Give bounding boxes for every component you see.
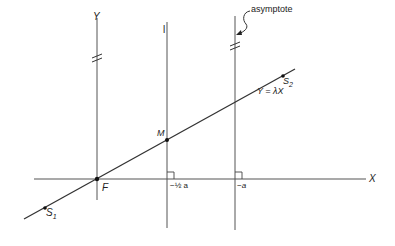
line-y-equals-lambda-x [24, 69, 295, 219]
diagram-canvas: Y l asymptote S2 Y = λX M F −½ a −a X S1 [0, 0, 395, 246]
diagram-lines [0, 0, 395, 246]
tick-half-a-label: −½ a [170, 182, 188, 190]
tick-a-label: −a [237, 182, 246, 190]
right-angle-mark [235, 172, 242, 179]
s1-subscript: 1 [53, 213, 57, 220]
point-M-label: M [157, 129, 165, 138]
y-axis-label: Y [93, 12, 100, 22]
point-F-label: F [102, 183, 108, 193]
point-F [95, 177, 99, 181]
s2-subscript: 2 [289, 81, 293, 88]
asymptote-pointer-arrow [238, 11, 250, 34]
point-M [165, 138, 169, 142]
line-equation-label: Y = λX [257, 87, 284, 96]
s1-label: S1 [46, 208, 57, 220]
right-angle-mark [167, 172, 174, 179]
arrowhead-icon [236, 30, 242, 35]
x-axis-label: X [369, 174, 376, 184]
s2-label: S2 [283, 77, 293, 88]
s1-main: S [46, 207, 53, 218]
asymptote-label: asymptote [251, 5, 293, 14]
line-l-label: l [163, 25, 165, 35]
